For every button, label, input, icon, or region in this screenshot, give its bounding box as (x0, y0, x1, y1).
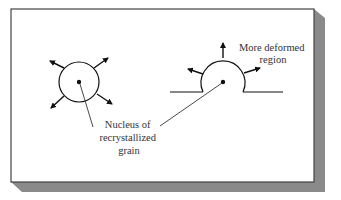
nucleus-dot (77, 80, 81, 84)
frame (11, 9, 314, 182)
recrystallization-diagram: Nucleus of recrystallized grain More def… (0, 0, 341, 200)
